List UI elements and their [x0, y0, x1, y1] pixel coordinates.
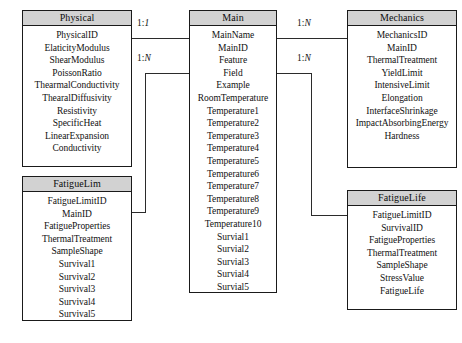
attribute-row: ShearModulus: [25, 54, 129, 67]
connector-physical-main: [132, 38, 189, 39]
connector-main-fatiguelim-bottom: [132, 212, 146, 213]
attribute-row: Temperature7: [192, 180, 274, 193]
cardinality-main-mechanics: 1:N: [297, 18, 311, 29]
entity-fatiguelife-title: FatigueLife: [348, 191, 456, 206]
connector-main-fatiguelife-vertical: [311, 73, 312, 215]
attribute-row: Temperature5: [192, 155, 274, 168]
er-diagram-canvas: 1:1 1:N 1:N 1:N Physical PhysicalID Elat…: [0, 0, 462, 343]
attribute-row: ThermalTreatment: [25, 233, 129, 246]
attribute-row: MainName: [192, 29, 274, 42]
attribute-row: FatigueProperties: [25, 220, 129, 233]
entity-fatiguelim-title: FatigueLim: [23, 177, 131, 192]
attribute-row: Survival1: [25, 258, 129, 271]
entity-fatiguelim-attributes: FatigueLimitID MainID FatigueProperties …: [23, 192, 131, 325]
entity-fatiguelife-attributes: FatigueLimitID SurvivalID FatiguePropert…: [348, 206, 456, 301]
attribute-row: ThermalTreatment: [350, 54, 454, 67]
attribute-row: Field: [192, 67, 274, 80]
attribute-row: Survival4: [25, 296, 129, 309]
attribute-row: FatigueProperties: [350, 234, 454, 247]
entity-mechanics-title: Mechanics: [348, 11, 456, 26]
attribute-row: IntensiveLimit: [350, 79, 454, 92]
attribute-row: SpecificHeat: [25, 117, 129, 130]
attribute-row: Temperature6: [192, 168, 274, 181]
attribute-row: Survial1: [192, 231, 274, 244]
attribute-row: Survival5: [25, 308, 129, 321]
attribute-row: Temperature8: [192, 193, 274, 206]
attribute-row: YieldLimit: [350, 67, 454, 80]
entity-physical-title: Physical: [23, 11, 131, 26]
attribute-row: Survial4: [192, 268, 274, 281]
attribute-row: Survial5: [192, 281, 274, 294]
attribute-row: InterfaceShrinkage: [350, 105, 454, 118]
attribute-row: Survival3: [25, 283, 129, 296]
attribute-row: Temperature10: [192, 218, 274, 231]
entity-main-title: Main: [190, 11, 276, 26]
attribute-row: FatigueLimitID: [25, 195, 129, 208]
attribute-row: Temperature4: [192, 142, 274, 155]
entity-fatiguelife[interactable]: FatigueLife FatigueLimitID SurvivalID Fa…: [347, 190, 457, 310]
connector-main-mechanics: [277, 38, 347, 39]
attribute-row: StressValue: [350, 272, 454, 285]
attribute-row: Temperature3: [192, 130, 274, 143]
attribute-row: ElaticityModulus: [25, 42, 129, 55]
attribute-row: PoissonRatio: [25, 67, 129, 80]
entity-fatiguelim[interactable]: FatigueLim FatigueLimitID MainID Fatigue…: [22, 176, 132, 321]
entity-physical[interactable]: Physical PhysicalID ElaticityModulus She…: [22, 10, 132, 167]
attribute-row: Survial3: [192, 256, 274, 269]
attribute-row: FatigueLimitID: [350, 209, 454, 222]
attribute-row: SurvivalID: [350, 222, 454, 235]
attribute-row: Temperature1: [192, 105, 274, 118]
attribute-row: FatigueLife: [350, 285, 454, 298]
attribute-row: SampleShape: [350, 259, 454, 272]
attribute-row: PhysicalID: [25, 29, 129, 42]
attribute-row: Conductivity: [25, 142, 129, 155]
connector-main-fatiguelim-top: [145, 73, 189, 74]
entity-main-attributes: MainName MainID Feature Field Example Ro…: [190, 26, 276, 297]
entity-mechanics-attributes: MechanicsID MainID ThermalTreatment Yiel…: [348, 26, 456, 146]
entity-mechanics[interactable]: Mechanics MechanicsID MainID ThermalTrea…: [347, 10, 457, 168]
connector-main-fatiguelim-vertical: [145, 73, 146, 212]
attribute-row: ThearmalConductivity: [25, 79, 129, 92]
attribute-row: Survial2: [192, 243, 274, 256]
connector-main-fatiguelife-bottom: [311, 215, 347, 216]
attribute-row: MainID: [350, 42, 454, 55]
attribute-row: MechanicsID: [350, 29, 454, 42]
attribute-row: ImpactAbsorbingEnergy: [350, 117, 454, 130]
cardinality-main-fatiguelim: 1:N: [137, 53, 151, 64]
attribute-row: LinearExpansion: [25, 130, 129, 143]
attribute-row: Resistivity: [25, 105, 129, 118]
attribute-row: Feature: [192, 54, 274, 67]
cardinality-physical-main: 1:1: [137, 18, 149, 29]
entity-main[interactable]: Main MainName MainID Feature Field Examp…: [189, 10, 277, 293]
attribute-row: Hardness: [350, 130, 454, 143]
attribute-row: MainID: [192, 42, 274, 55]
attribute-row: Survival2: [25, 271, 129, 284]
attribute-row: RoomTemperature: [192, 92, 274, 105]
attribute-row: SampleShape: [25, 245, 129, 258]
attribute-row: MainID: [25, 208, 129, 221]
connector-main-fatiguelife-top: [277, 73, 311, 74]
attribute-row: Temperature2: [192, 117, 274, 130]
attribute-row: ThearalDiffusivity: [25, 92, 129, 105]
attribute-row: ThermalTreatment: [350, 247, 454, 260]
cardinality-main-fatiguelife: 1:N: [297, 53, 311, 64]
attribute-row: Example: [192, 79, 274, 92]
entity-physical-attributes: PhysicalID ElaticityModulus ShearModulus…: [23, 26, 131, 159]
attribute-row: Elongation: [350, 92, 454, 105]
attribute-row: Temperature9: [192, 205, 274, 218]
